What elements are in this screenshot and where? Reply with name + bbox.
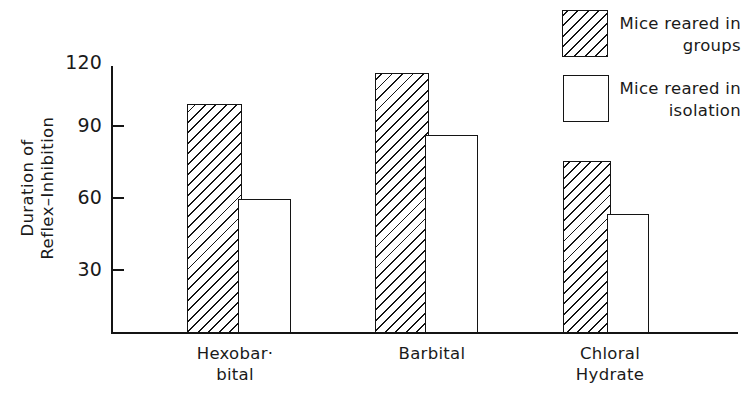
legend-label-groups-line2: groups <box>616 35 741 57</box>
y-tick-label-90: 90 <box>44 116 102 135</box>
x-category-label-barbital: Barbital <box>362 343 502 364</box>
x-category-label-barbital-line1: Barbital <box>362 343 502 364</box>
bar-chart: Duration of Reflex–Inhibition 120 90 60 … <box>0 0 751 403</box>
x-category-label-chloral-hydrate-line1: Chloral <box>540 343 680 364</box>
x-category-label-chloral-hydrate-line2: Hydrate <box>540 364 680 385</box>
legend-label-isolation-line1: Mice reared in <box>616 78 741 100</box>
bar-barbital-isolation <box>425 135 478 333</box>
y-tick-label-60: 60 <box>44 188 102 207</box>
x-category-label-hexobarbital: Hexobar· bital <box>165 343 305 385</box>
legend-label-isolation-line2: isolation <box>616 100 741 122</box>
bar-chloral-hydrate-isolation <box>607 214 649 333</box>
y-tick-mark-90 <box>112 125 124 127</box>
y-axis-line <box>111 66 113 334</box>
bar-chloral-hydrate-groups <box>563 161 611 333</box>
bar-hexobarbital-isolation <box>238 199 291 333</box>
x-category-label-hexobarbital-line2: bital <box>165 364 305 385</box>
y-tick-mark-60 <box>112 197 124 199</box>
y-tick-mark-30 <box>112 269 124 271</box>
y-tick-label-30: 30 <box>44 260 102 279</box>
y-tick-label-120: 120 <box>44 53 102 72</box>
x-category-label-hexobarbital-line1: Hexobar· <box>165 343 305 364</box>
bar-barbital-groups <box>375 73 429 333</box>
legend-item-groups <box>562 10 608 57</box>
legend-label-isolation: Mice reared in isolation <box>616 78 741 122</box>
legend-swatch-isolation <box>563 75 609 122</box>
bar-hexobarbital-groups <box>187 104 242 333</box>
legend-label-groups: Mice reared in groups <box>616 13 741 57</box>
y-axis-title-line1: Duration of <box>18 88 38 288</box>
legend-item-isolation <box>563 75 609 122</box>
legend-label-groups-line1: Mice reared in <box>616 13 741 35</box>
legend-swatch-groups <box>562 10 608 57</box>
x-category-label-chloral-hydrate: Chloral Hydrate <box>540 343 680 385</box>
